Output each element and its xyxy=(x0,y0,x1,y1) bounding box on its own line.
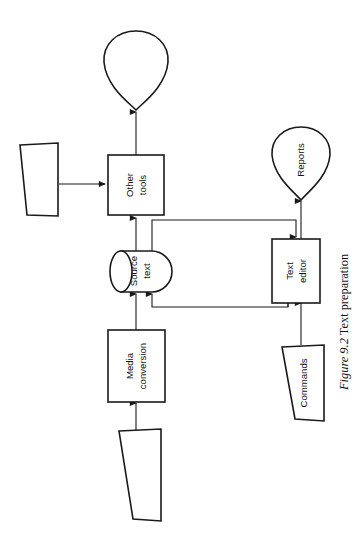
node-media-conversion-label-line1: Media xyxy=(124,352,135,379)
node-other-tools-label-line1: Other xyxy=(124,172,135,197)
flowchart-diagram: Other tools Source text Media conversion… xyxy=(0,0,363,542)
figure-caption-text: Text preparation xyxy=(337,254,351,335)
figure-caption-prefix: Figure 9.2 xyxy=(337,338,351,391)
edge-text-editor-to-source-text xyxy=(152,294,288,307)
node-text-editor-label-line1: Text xyxy=(284,262,295,280)
figure-container: Other tools Source text Media conversion… xyxy=(0,0,363,542)
node-other-tools-label-line2: tools xyxy=(137,175,148,195)
node-manual-input-tools[interactable] xyxy=(20,143,58,216)
node-media-input[interactable] xyxy=(119,429,161,521)
node-reports-label: Reports xyxy=(295,143,306,177)
node-media-conversion-label-line2: conversion xyxy=(137,343,148,389)
node-commands-label: Commands xyxy=(298,358,309,407)
node-source-text-label-line2: text xyxy=(141,263,152,279)
node-printed-output[interactable] xyxy=(104,31,168,110)
node-text-editor-label-line2: editor xyxy=(297,258,308,283)
svg-text:Figure 9.2 T: Figure 9.2 Text preparation xyxy=(337,254,351,391)
figure-caption: Figure 9.2 Text preparation xyxy=(337,254,351,391)
node-source-text-label-line1: Source xyxy=(128,256,139,286)
